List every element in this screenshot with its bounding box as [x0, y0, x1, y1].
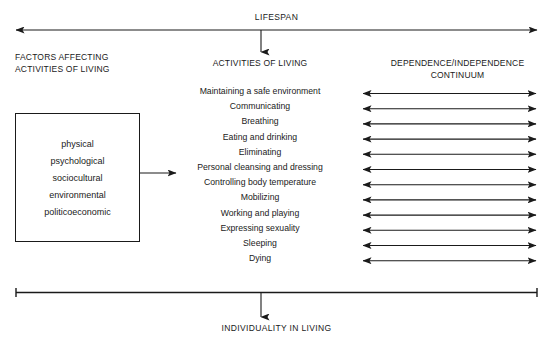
- list-item: Mobilizing: [0, 192, 553, 207]
- activity-label: Eliminating: [170, 147, 350, 158]
- activity-label: Maintaining a safe environment: [170, 86, 350, 97]
- factors-column-heading: FACTORS AFFECTING ACTIVITIES OF LIVING: [15, 52, 110, 75]
- activities-column-heading: ACTIVITIES OF LIVING: [170, 58, 350, 70]
- activity-label: Expressing sexuality: [170, 223, 350, 234]
- list-item: Breathing: [0, 116, 553, 131]
- list-item: Eating and drinking: [0, 132, 553, 147]
- activities-list: Maintaining a safe environment Communica…: [0, 86, 553, 268]
- activity-label: Eating and drinking: [170, 132, 350, 143]
- activity-label: Controlling body temperature: [170, 177, 350, 188]
- list-item: Working and playing: [0, 208, 553, 223]
- activity-label: Sleeping: [170, 238, 350, 249]
- factors-column-heading-line2: ACTIVITIES OF LIVING: [15, 64, 110, 76]
- bottom-bracket: [16, 288, 537, 297]
- factors-column-heading-line1: FACTORS AFFECTING: [15, 52, 110, 64]
- lifespan-label: LIFESPAN: [0, 12, 553, 22]
- list-item: Personal cleansing and dressing: [0, 162, 553, 177]
- continuum-column-heading: DEPENDENCE/INDEPENDENCE CONTINUUM: [370, 58, 545, 81]
- individuality-label: INDIVIDUALITY IN LIVING: [0, 323, 553, 333]
- list-item: Controlling body temperature: [0, 177, 553, 192]
- continuum-column-heading-line2: CONTINUUM: [370, 70, 545, 82]
- list-item: Eliminating: [0, 147, 553, 162]
- continuum-column-heading-line1: DEPENDENCE/INDEPENDENCE: [370, 58, 545, 70]
- activity-label: Breathing: [170, 116, 350, 127]
- activity-label: Mobilizing: [170, 192, 350, 203]
- list-item: Communicating: [0, 101, 553, 116]
- list-item: Dying: [0, 253, 553, 268]
- list-item: Maintaining a safe environment: [0, 86, 553, 101]
- list-item: Expressing sexuality: [0, 223, 553, 238]
- activity-label: Working and playing: [170, 208, 350, 219]
- diagram-canvas: LIFESPAN FACTORS AFFECTING ACTIVITIES OF…: [0, 0, 553, 342]
- activity-label: Communicating: [170, 101, 350, 112]
- list-item: Sleeping: [0, 238, 553, 253]
- activity-label: Dying: [170, 253, 350, 264]
- activity-label: Personal cleansing and dressing: [170, 162, 350, 173]
